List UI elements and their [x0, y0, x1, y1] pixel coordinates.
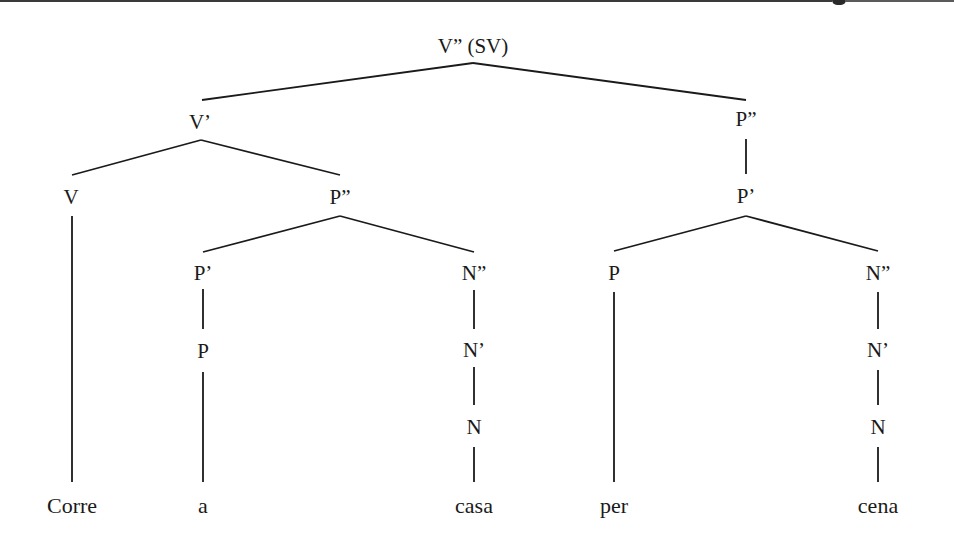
node-p-double-bar-mid: P”	[330, 187, 351, 208]
node-p-mid: P	[197, 341, 209, 362]
edge-pbarright-pright	[614, 216, 746, 251]
leaf-word-corre: Corre	[47, 495, 97, 517]
edge-p2mid-n2mid	[340, 216, 474, 252]
node-n-mid: N	[466, 417, 481, 438]
leaf-word-a: a	[198, 495, 208, 517]
leaf-word-casa: casa	[455, 495, 493, 517]
leaf-word-per: per	[600, 495, 628, 517]
node-p-right: P	[608, 263, 620, 284]
node-n-right: N	[870, 417, 885, 438]
node-p-double-bar-right: P”	[736, 109, 757, 130]
edge-vbar-p2mid	[201, 140, 340, 175]
edge-pbarright-n2right	[746, 216, 878, 251]
node-n-double-bar-mid: N”	[462, 263, 487, 284]
node-v: V	[63, 187, 78, 208]
node-v-bar: V’	[189, 112, 211, 133]
node-p-bar-mid: P’	[194, 263, 213, 284]
node-n-bar-right: N’	[867, 340, 889, 361]
node-p-bar-right: P’	[737, 186, 756, 207]
node-root-vp: V” (SV)	[438, 36, 509, 57]
edge-p2mid-pbarmid	[203, 216, 340, 252]
edge-root-p2right	[473, 63, 746, 100]
node-n-double-bar-right: N”	[866, 263, 891, 284]
leaf-word-cena: cena	[858, 495, 898, 517]
edge-root-vbar	[202, 63, 473, 100]
node-n-bar-mid: N’	[463, 340, 485, 361]
edge-vbar-v	[72, 140, 201, 175]
